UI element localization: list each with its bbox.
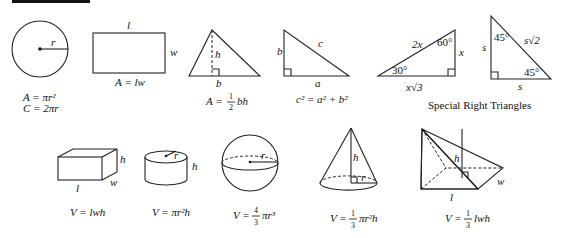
pyramid-frac-num: 1 bbox=[466, 209, 470, 218]
rectangle-width-label: w bbox=[170, 46, 178, 58]
triangle-base-label: b bbox=[216, 77, 222, 89]
sphere-frac-num: 4 bbox=[254, 206, 258, 215]
cone-formula-suffix: πr²h bbox=[359, 212, 378, 224]
triangle-frac-den: 2 bbox=[229, 103, 233, 112]
hyp-2x-label: 2x bbox=[412, 38, 423, 50]
rectangle-figure: l w A = lw bbox=[93, 19, 178, 88]
cone-r-label: r bbox=[361, 171, 366, 183]
triangle-formula-suffix: bh bbox=[237, 95, 249, 107]
hyp-s-root2-label: s√2 bbox=[524, 34, 540, 46]
triangle-formula-prefix: A = bbox=[205, 95, 223, 107]
pyramid-figure: h l w V = 1 3 lwh bbox=[421, 129, 505, 230]
box-l-label: l bbox=[76, 182, 79, 194]
circle-figure: r A = πr² C = 2πr bbox=[12, 21, 68, 114]
right-triangle-hyp-c: c bbox=[318, 37, 323, 49]
sphere-r-label: r bbox=[261, 149, 266, 161]
cone-frac-den: 3 bbox=[351, 221, 355, 230]
triangle-frac-num: 1 bbox=[229, 92, 233, 101]
angle-45-right-label: 45° bbox=[524, 66, 539, 78]
box-volume-formula: V = lwh bbox=[70, 206, 106, 218]
angle-45-top-label: 45° bbox=[494, 31, 509, 43]
rectangle-area-formula: A = lw bbox=[114, 76, 145, 88]
cone-frac-num: 1 bbox=[351, 209, 355, 218]
cylinder-figure: r h V = πr²h bbox=[145, 149, 198, 218]
cone-figure: h r V = 1 3 πr²h bbox=[320, 128, 378, 230]
triangle-figure: h b A = 1 2 bh bbox=[189, 30, 260, 112]
triangle-height-label: h bbox=[215, 48, 221, 60]
sphere-formula-suffix: πr³ bbox=[262, 209, 276, 221]
pythagorean-formula: c² = a² + b² bbox=[296, 93, 348, 105]
short-leg-x-label: x bbox=[458, 46, 464, 58]
triangle-45-45-90-figure: 45° s√2 s 45° s bbox=[482, 16, 551, 92]
pyramid-h-label: h bbox=[454, 152, 460, 164]
pyramid-frac-den: 3 bbox=[466, 221, 470, 230]
pyramid-l-label: l bbox=[450, 191, 453, 203]
sphere-frac-den: 3 bbox=[254, 218, 258, 227]
box-figure: h w l V = lwh bbox=[58, 149, 126, 218]
pyramid-formula-prefix: V = bbox=[445, 212, 462, 224]
cone-formula-prefix: V = bbox=[330, 212, 347, 224]
right-triangle-leg-a: a bbox=[315, 77, 321, 89]
pyramid-formula-suffix: lwh bbox=[474, 212, 490, 224]
angle-30-label: 30° bbox=[392, 64, 407, 76]
box-w-label: w bbox=[110, 176, 118, 188]
cylinder-h-label: h bbox=[192, 160, 198, 172]
circle-radius-label: r bbox=[51, 36, 56, 48]
leg-s-left-label: s bbox=[482, 41, 486, 53]
leg-s-bottom-label: s bbox=[518, 80, 522, 92]
right-triangle-figure: b c a c² = a² + b² bbox=[277, 30, 349, 105]
circle-circumference-formula: C = 2πr bbox=[23, 102, 59, 114]
cylinder-r-label: r bbox=[174, 149, 179, 161]
rectangle-length-label: l bbox=[127, 19, 130, 31]
box-h-label: h bbox=[120, 153, 126, 165]
long-leg-label: x√3 bbox=[405, 81, 423, 93]
cone-h-label: h bbox=[353, 151, 359, 163]
triangle-30-60-90-figure: 2x 60° x 30° x√3 bbox=[378, 30, 464, 93]
angle-60-label: 60° bbox=[437, 36, 452, 48]
cylinder-volume-formula: V = πr²h bbox=[152, 206, 191, 218]
pyramid-w-label: w bbox=[497, 175, 505, 187]
right-triangle-leg-b: b bbox=[277, 45, 283, 57]
sphere-formula-prefix: V = bbox=[233, 209, 250, 221]
sphere-figure: r V = 4 3 πr³ bbox=[222, 135, 278, 227]
geometry-reference-diagram: r A = πr² C = 2πr l w A = lw h b A = 1 2… bbox=[0, 0, 562, 238]
special-right-triangles-caption: Special Right Triangles bbox=[428, 99, 531, 111]
